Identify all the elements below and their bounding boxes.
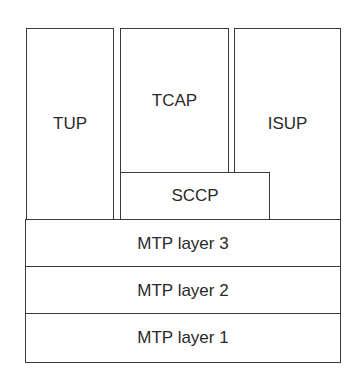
tup-label: TUP (53, 114, 87, 134)
mtp-layer-1-label: MTP layer 1 (137, 328, 228, 348)
tup-box: TUP (26, 28, 114, 220)
sccp-box: SCCP (120, 172, 270, 220)
mtp-layer-3-box: MTP layer 3 (25, 219, 341, 268)
sccp-label: SCCP (171, 186, 218, 206)
tcap-box: TCAP (120, 28, 229, 174)
tcap-label: TCAP (152, 91, 197, 111)
mtp-layer-3-label: MTP layer 3 (137, 234, 228, 254)
mtp-layer-2-label: MTP layer 2 (137, 281, 228, 301)
mtp-layer-2-box: MTP layer 2 (25, 266, 341, 315)
mtp-layer-1-box: MTP layer 1 (25, 313, 341, 363)
isup-label: ISUP (268, 114, 308, 134)
